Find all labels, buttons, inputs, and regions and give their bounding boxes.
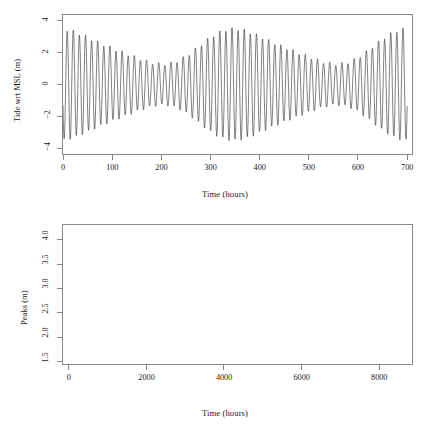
axis-tick-mark [57,264,62,265]
x-tick-label: 0 [61,163,65,172]
y-tick-label: −2 [43,111,52,120]
bottom-panel-plot-area [62,224,413,365]
y-tick-label: 2.0 [41,328,50,338]
figure-canvas: Hypothetical t0 = 10−21−2017 06:52GMT Ti… [0,0,429,434]
tide-timeseries-line [63,15,412,154]
y-tick-label: 2 [41,49,50,53]
axis-tick-mark [259,155,260,160]
axis-tick-mark [57,84,62,85]
axis-tick-mark [57,288,62,289]
top-panel-y-axis-label: Tide wrt MSL (m) [12,59,22,122]
x-tick-label: 100 [106,163,118,172]
top-panel: Hypothetical t0 = 10−21−2017 06:52GMT Ti… [0,0,429,205]
y-tick-label: −4 [43,143,52,152]
y-tick-label: 3.5 [41,254,50,264]
axis-tick-mark [112,155,113,160]
axis-tick-mark [57,116,62,117]
bottom-panel-y-axis-label: Peaks (m) [19,290,29,325]
y-tick-label: 4 [41,17,50,21]
axis-tick-mark [161,155,162,160]
x-tick-label: 400 [254,163,266,172]
y-tick-label: 4.0 [41,230,50,240]
axis-tick-mark [308,155,309,160]
x-tick-label: 2000 [138,373,154,382]
y-tick-label: 2.5 [41,303,50,313]
x-tick-label: 600 [352,163,364,172]
x-tick-label: 6000 [293,373,309,382]
tide-waveform-path [63,28,407,141]
top-panel-x-axis-label: Time (hours) [202,189,248,199]
x-tick-label: 200 [155,163,167,172]
x-tick-label: 300 [204,163,216,172]
axis-tick-mark [57,148,62,149]
axis-tick-mark [63,155,64,160]
y-tick-label: 1.5 [41,352,50,362]
axis-tick-mark [57,312,62,313]
y-tick-label: 0 [41,81,50,85]
peaks-scatter-points [63,225,412,364]
axis-tick-mark [407,155,408,160]
axis-tick-mark [301,365,302,370]
axis-tick-mark [57,361,62,362]
axis-tick-mark [57,20,62,21]
axis-tick-mark [57,52,62,53]
axis-tick-mark [146,365,147,370]
axis-tick-mark [57,337,62,338]
axis-tick-mark [210,155,211,160]
axis-tick-mark [379,365,380,370]
x-tick-label: 700 [401,163,413,172]
axis-tick-mark [68,365,69,370]
x-tick-label: 4000 [216,373,232,382]
bottom-panel: Peaks (m) Time (hours) 1.52.02.53.03.54.… [0,205,429,434]
y-tick-label: 3.0 [41,279,50,289]
axis-tick-mark [357,155,358,160]
axis-tick-mark [223,365,224,370]
axis-tick-mark [57,239,62,240]
bottom-panel-x-axis-label: Time (hours) [202,408,248,418]
top-panel-plot-area [62,14,413,155]
x-tick-label: 8000 [371,373,387,382]
x-tick-label: 0 [67,373,71,382]
x-tick-label: 500 [303,163,315,172]
